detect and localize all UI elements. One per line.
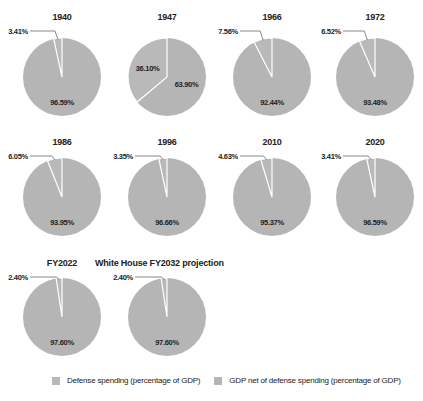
leader-line [240,31,263,40]
legend-item-defense: Defense spending (percentage of GDP) [52,376,200,385]
leader-line [30,31,58,39]
gdp-net-value-label: 93.48% [363,98,387,107]
gdp-net-value-label: 97.60% [155,338,179,347]
pie-chart-1972: 19726.52%93.48% [323,12,423,132]
legend-label-gdp-net: GDP net of defense spending (percentage … [229,376,400,385]
pie-graphic: 7.56%92.44% [220,12,324,132]
gdp-net-value-label: 97.60% [50,338,74,347]
legend-item-gdp-net: GDP net of defense spending (percentage … [214,376,400,385]
legend-label-defense: Defense spending (percentage of GDP) [67,376,200,385]
legend: Defense spending (percentage of GDP) GDP… [52,376,415,385]
pie-graphic: 3.41%96.59% [10,12,114,132]
gdp-net-value-label: 96.59% [50,98,74,107]
defense-value-label: 6.52% [321,27,341,36]
legend-swatch-gdp-net [214,377,222,385]
pie-chart-1966: 19667.56%92.44% [220,12,324,132]
pie-chart-2020: 20203.41%96.59% [323,137,423,257]
pie-graphic: 36.10%63.90% [115,12,219,132]
pie-chart-1940: 19403.41%96.59% [10,12,114,132]
gdp-net-value-label: 63.90% [175,80,199,89]
pie-graphic: 2.40%97.60% [10,258,114,378]
defense-value-label: 4.63% [218,152,238,161]
legend-swatch-defense [52,377,60,385]
pie-chart-1996: 19963.35%96.66% [115,137,219,257]
defense-value-label: 36.10% [136,64,160,73]
pie-graphic: 4.63%95.37% [220,137,324,257]
gdp-net-value-label: 96.66% [155,218,179,227]
gdp-net-value-label: 93.95% [50,218,74,227]
defense-value-label: 7.56% [218,27,238,36]
defense-value-label: 6.05% [8,152,28,161]
gdp-net-value-label: 96.59% [363,218,387,227]
pie-graphic: 2.40%97.60% [115,258,219,378]
defense-value-label: 3.41% [321,152,341,161]
pie-graphic: 3.35%96.66% [115,137,219,257]
pie-graphic: 3.41%96.59% [323,137,423,257]
pie-graphic: 6.52%93.48% [323,12,423,132]
pie-chart-2010: 20104.63%95.37% [220,137,324,257]
gdp-net-value-label: 95.37% [260,218,284,227]
pie-chart-1986: 19866.05%93.95% [10,137,114,257]
defense-value-label: 2.40% [8,273,28,282]
pie-chart-fy2022: FY20222.40%97.60% [10,258,114,378]
gdp-net-value-label: 92.44% [260,98,284,107]
defense-value-label: 2.40% [113,273,133,282]
defense-value-label: 3.41% [8,27,28,36]
leader-line [343,31,367,40]
pie-chart-white-house-fy2032-projection: White House FY2032 projection2.40%97.60% [115,258,219,378]
pie-graphic: 6.05%93.95% [10,137,114,257]
pie-chart-1947: 194736.10%63.90% [115,12,219,132]
defense-value-label: 3.35% [113,152,133,161]
